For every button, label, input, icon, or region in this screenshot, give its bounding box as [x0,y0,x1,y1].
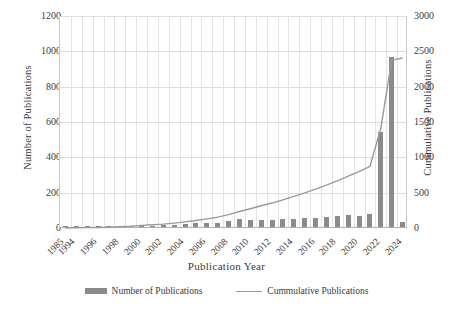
legend-item-bars: Number of Publications [85,286,203,296]
y-tick-right-2500: 2500 [414,46,453,56]
y-tick-right-1500: 1500 [414,117,453,127]
legend-item-line: Cummulative Publications [236,286,368,296]
x-axis-title: Publication Year [0,260,453,272]
y-tick-left-600: 600 [21,117,61,127]
publication-trend-chart: Number of Publications Cummulative Publi… [0,0,453,314]
y-tick-left-800: 800 [21,82,61,92]
legend-label-line: Cummulative Publications [267,286,368,296]
y-tick-left-0: 0 [21,223,61,233]
plot-area [59,16,407,228]
y-tick-left-200: 200 [21,188,61,198]
y-tick-right-500: 500 [414,188,453,198]
y-tick-right-2000: 2000 [414,82,453,92]
y-tick-right-1000: 1000 [414,152,453,162]
legend-label-bars: Number of Publications [112,286,203,296]
y-tick-left-1000: 1000 [21,46,61,56]
chart-legend: Number of Publications Cummulative Publi… [0,286,453,296]
y-tick-left-400: 400 [21,152,61,162]
line-swatch-icon [236,291,262,292]
bar-swatch-icon [85,288,107,294]
y-tick-right-0: 0 [414,223,453,233]
y-tick-right-3000: 3000 [414,11,453,21]
y-tick-left-1200: 1200 [21,11,61,21]
line-series [60,16,408,228]
